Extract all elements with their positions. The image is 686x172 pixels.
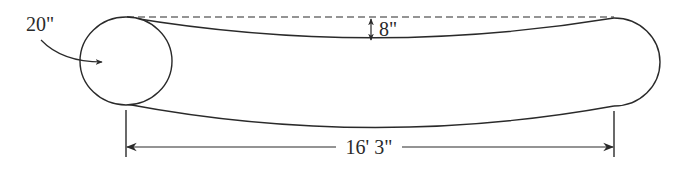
- length-label: 16' 3": [346, 136, 393, 158]
- log-dimension-diagram: 20" 8" 16' 3": [0, 0, 686, 172]
- log-cross-section-circle: [80, 17, 172, 105]
- diameter-label: 20": [26, 13, 54, 35]
- bow-offset-label: 8": [379, 18, 397, 40]
- log-bottom-edge: [126, 104, 614, 128]
- log-right-end: [614, 18, 660, 106]
